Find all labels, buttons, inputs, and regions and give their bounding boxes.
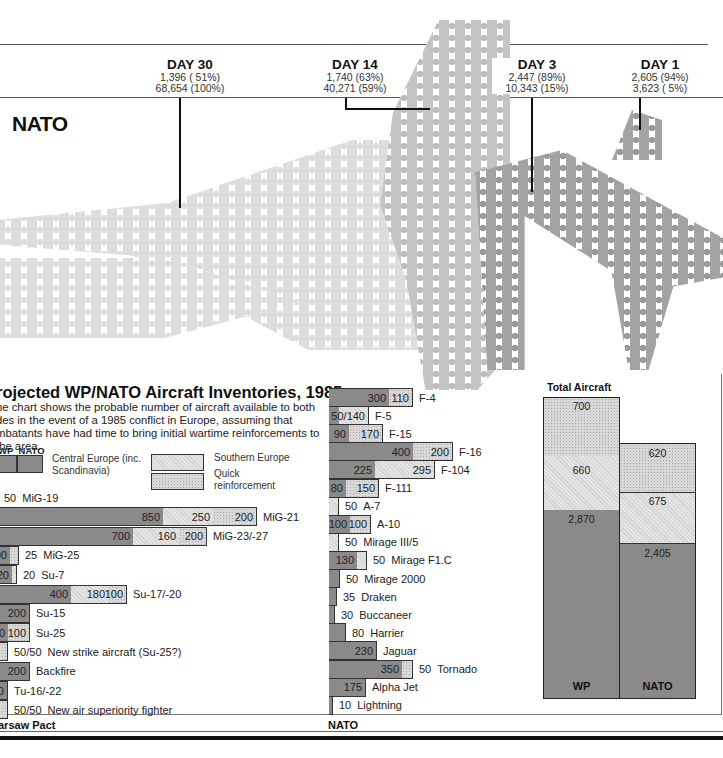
bar-value: 35 <box>337 591 355 603</box>
day-14-pointer-h <box>345 108 430 110</box>
bar-row: 230Jaguar <box>329 641 417 660</box>
day-total: 3,623 ( 5%) <box>620 83 700 94</box>
day-30-pointer <box>179 98 181 208</box>
bar-segment-dark: 400 <box>329 442 413 461</box>
bar-value: 50 <box>367 554 385 566</box>
wp-south-value: 660 <box>573 464 591 476</box>
total-nato-column: 620 675 2,405 NATO <box>619 443 696 699</box>
wp-footer: arsaw Pact <box>0 719 55 731</box>
day-1-pointer <box>639 98 641 130</box>
bar-row: 400180100Su-17/-20 <box>0 585 181 604</box>
bar-value: 50 <box>0 492 16 504</box>
aircraft-pattern-day3 <box>475 150 723 370</box>
bar-segment-dark <box>329 623 346 642</box>
bar-label: F-16 <box>453 446 482 458</box>
nato-quick-segment: 620 <box>620 444 695 493</box>
bar-segment-quick: 100 <box>108 585 127 604</box>
wp-quick-value: 700 <box>573 400 591 412</box>
total-wp-column: 700 660 2,870 WP <box>543 397 620 699</box>
bar-row: 225295F-104 <box>329 460 470 479</box>
bar-row: 80Harrier <box>329 623 404 642</box>
bar-segment-south <box>357 551 367 570</box>
nato-south-segment: 675 <box>620 493 695 543</box>
bar-label: Jaguar <box>377 645 417 657</box>
bar-row: 90Tu-16/-22 <box>0 681 61 700</box>
bar-segment-quick <box>0 700 8 719</box>
bar-label: MiG-19 <box>16 492 58 504</box>
bar-row: 50/50New strike aircraft (Su-25?) <box>0 642 181 661</box>
bar-row: 35050Tornado <box>329 660 477 679</box>
legend-central-swatch-nato <box>17 455 43 473</box>
bar-row: 200Su-15 <box>0 604 65 623</box>
bar-row: 50Mirage III/5 <box>329 533 418 552</box>
wp-south-segment: 660 <box>544 456 619 510</box>
bar-row: 700160200MiG-23/-27 <box>0 527 268 546</box>
day-total: 10,343 (15%) <box>492 83 582 94</box>
bar-label: F-5 <box>369 410 392 422</box>
bar-segment-dark: 225 <box>329 460 375 479</box>
wp-central-segment: 2,870 <box>544 510 619 698</box>
day-3-label: DAY 3 2,447 (89%) 10,343 (15%) <box>492 58 582 94</box>
bar-segment-dark: 850 <box>0 507 163 526</box>
nato-footer: NATO <box>328 719 358 731</box>
bar-label: Lightning <box>351 699 402 711</box>
bar-value: 20 <box>17 569 35 581</box>
bar-label: Mirage F1.C <box>385 554 452 566</box>
bar-row: 90170F-15 <box>329 424 412 443</box>
legend-quick-label: Quick reinforcement <box>214 468 274 491</box>
nato-south-value: 675 <box>649 495 667 507</box>
bar-label: MiG-21 <box>257 511 299 523</box>
timeline-bottom-rule <box>0 97 723 98</box>
bar-segment-south: 50/140 <box>339 406 369 425</box>
day-14-label: DAY 14 1,740 (63%) 40,271 (59%) <box>305 58 405 94</box>
day-1-label: DAY 1 2,605 (94%) 3,623 ( 5%) <box>620 58 700 94</box>
day-total: 68,654 (100%) <box>140 83 240 94</box>
bar-row: 0025MiG-25 <box>0 546 79 565</box>
bar-label: Su-25 <box>30 627 65 639</box>
bar-row: 850250200MiG-21 <box>0 507 299 526</box>
bar-segment-dark: 00 <box>0 546 10 565</box>
day-title: DAY 14 <box>305 58 405 72</box>
bar-segment-quick: 200 <box>413 442 453 461</box>
bar-segment-south <box>329 497 339 516</box>
bar-value: 50 <box>340 573 358 585</box>
bar-segment-quick: 100 <box>350 515 371 534</box>
bar-segment-dark: 300 <box>329 388 389 407</box>
legend-central-swatch-wp <box>0 455 17 473</box>
nato-side-label: NATO <box>12 112 68 136</box>
bar-row: 300110F-4 <box>329 388 436 407</box>
bar-segment-quick <box>0 642 8 661</box>
bar-segment-dark: 175 <box>329 678 366 697</box>
bar-value: 50 <box>339 536 357 548</box>
bar-segment-dark <box>329 569 340 588</box>
bar-row: 50Mirage 2000 <box>329 569 425 588</box>
page-rule-thick <box>0 736 723 740</box>
bar-row: 50/50New air superiority fighter <box>0 700 172 719</box>
bar-label: Su-17/-20 <box>127 588 181 600</box>
page-rule-thin <box>0 731 723 732</box>
bar-label: Buccaneer <box>353 609 412 621</box>
bar-segment-south <box>329 533 339 552</box>
bar-value: 80 <box>346 627 364 639</box>
bar-segment-dark: 200 <box>0 662 30 681</box>
legend-central-label: Central Europe (inc. Scandinavia) <box>52 453 162 476</box>
day-30-label: DAY 30 1,396 ( 51%) 68,654 (100%) <box>140 58 240 94</box>
bar-row: 100100A-10 <box>329 515 400 534</box>
bar-segment-quick: 110 <box>389 388 413 407</box>
bar-segment-dark: 200 <box>0 604 30 623</box>
bar-value: 30 <box>335 609 353 621</box>
bar-label: Tornado <box>431 663 477 675</box>
bar-segment-south: 160 <box>133 527 179 546</box>
bar-label: A-10 <box>371 518 400 530</box>
bar-label: Su-7 <box>35 569 64 581</box>
timeline-top-rule <box>0 44 708 45</box>
aircraft-pattern-day1 <box>612 110 662 160</box>
nato-quick-value: 620 <box>649 447 667 459</box>
bar-value: 10 <box>333 699 351 711</box>
wp-central-value: 2,870 <box>568 513 594 525</box>
bar-value: 25 <box>19 549 37 561</box>
bar-row: 35Draken <box>329 587 397 606</box>
bar-segment-dark: 90 <box>329 424 349 443</box>
bar-segment-dark: 350 <box>329 660 402 679</box>
bar-segment-quick <box>10 546 19 565</box>
